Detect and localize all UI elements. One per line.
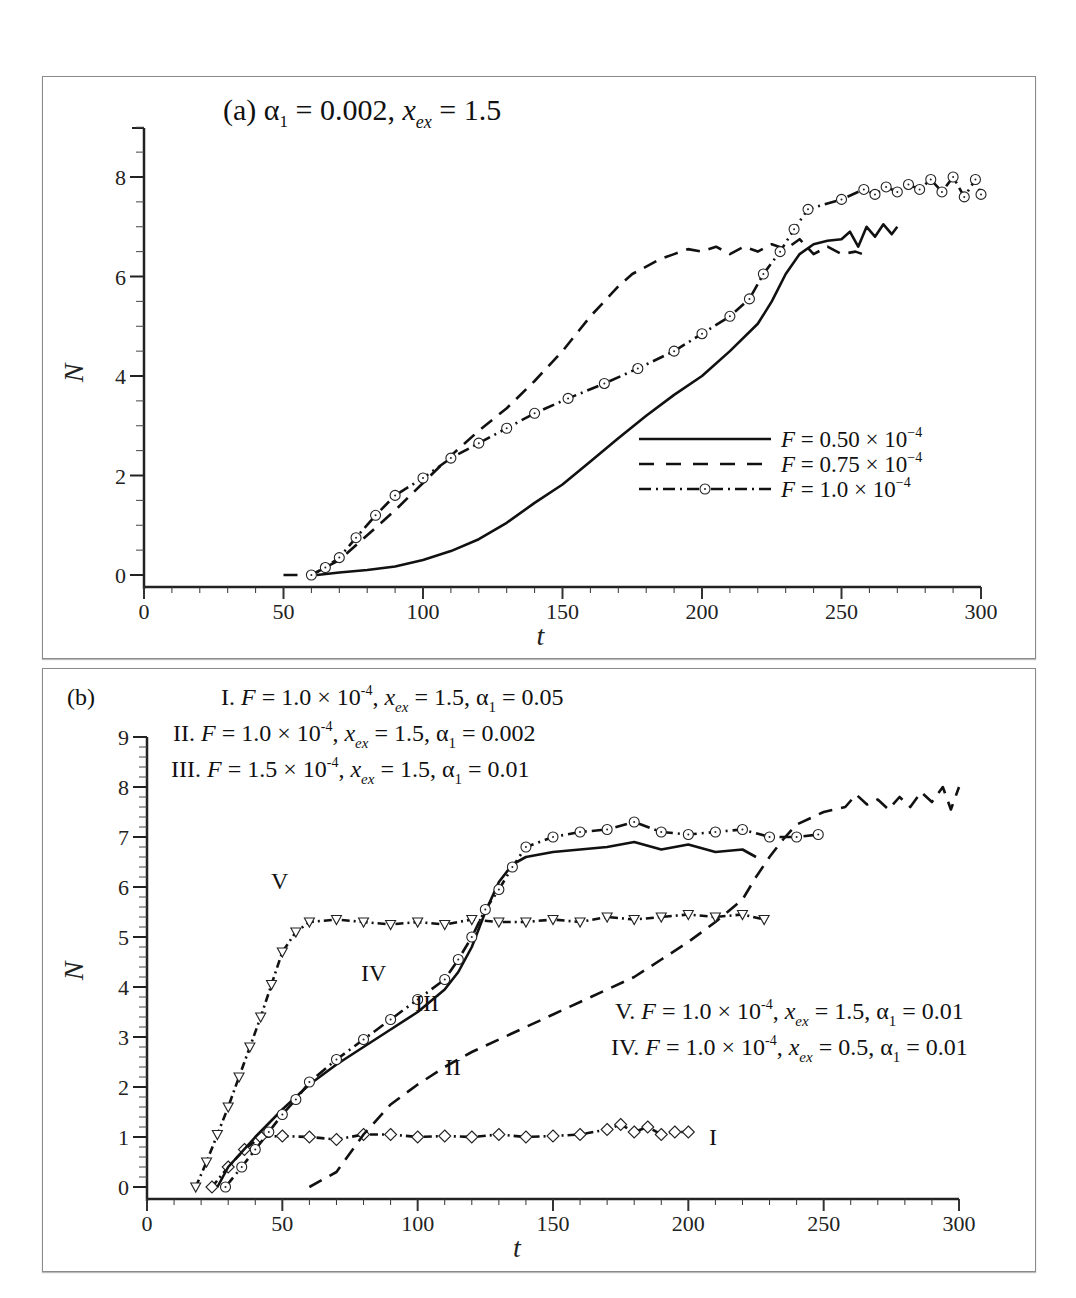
y-tick-label: 2 xyxy=(118,1075,129,1100)
triangle-marker xyxy=(277,948,287,957)
y-tick-label: 0 xyxy=(118,1175,129,1200)
diamond-marker xyxy=(682,1126,694,1138)
x-tick-label: 250 xyxy=(825,599,858,624)
series-f-0-50-10-4 xyxy=(317,224,897,575)
chart-a: 05010015020025030002468tN(a) α1 = 0.002,… xyxy=(43,77,1035,658)
annotation-v: V. F = 1.0 × 10-4, xex = 1.5, α1 = 0.01 xyxy=(615,997,964,1029)
y-tick-label: 0 xyxy=(115,563,126,588)
y-tick-label: 2 xyxy=(115,464,126,489)
x-tick-label: 50 xyxy=(271,1211,293,1236)
legend: F = 0.50 × 10−4F = 0.75 × 10−4F = 1.0 × … xyxy=(639,425,922,502)
x-tick-label: 150 xyxy=(546,599,579,624)
diamond-marker xyxy=(303,1131,315,1143)
x-tick-label: 150 xyxy=(537,1211,570,1236)
x-tick-label: 100 xyxy=(401,1211,434,1236)
diamond-marker xyxy=(493,1129,505,1141)
x-tick-label: 250 xyxy=(807,1211,840,1236)
curve-label-iv: IV xyxy=(361,960,387,986)
diamond-marker xyxy=(520,1131,532,1143)
y-axis-title: N xyxy=(58,362,89,383)
y-tick-label: 4 xyxy=(115,364,126,389)
triangle-marker xyxy=(212,1131,222,1140)
x-tick-label: 0 xyxy=(142,1211,153,1236)
y-tick-label: 7 xyxy=(118,825,129,850)
triangle-marker xyxy=(494,918,504,927)
triangle-marker xyxy=(291,928,301,937)
diamond-marker xyxy=(439,1130,451,1142)
y-tick-label: 9 xyxy=(118,725,129,750)
chart-title: (a) α1 = 0.002, xex = 1.5 xyxy=(223,93,501,132)
triangle-marker xyxy=(202,1158,212,1167)
curve-label-i: I xyxy=(709,1124,717,1150)
diamond-marker xyxy=(547,1130,559,1142)
y-tick-label: 6 xyxy=(118,875,129,900)
diamond-marker xyxy=(655,1129,667,1141)
triangle-marker xyxy=(234,1073,244,1082)
diamond-marker xyxy=(574,1129,586,1141)
annotation-iii: III. F = 1.5 × 10-4, xex = 1.5, α1 = 0.0… xyxy=(171,755,530,787)
diamond-marker xyxy=(615,1119,627,1131)
curve-label-ii: II xyxy=(445,1054,461,1080)
diamond-marker xyxy=(385,1129,397,1141)
curve-label-v: V xyxy=(271,868,289,894)
x-tick-label: 50 xyxy=(273,599,295,624)
series-i xyxy=(206,1119,694,1194)
y-axis-title: N xyxy=(58,960,89,981)
panel-b: 0501001502002503000123456789tN(b)I. F = … xyxy=(42,668,1036,1272)
diamond-marker xyxy=(412,1131,424,1143)
x-tick-label: 300 xyxy=(943,1211,976,1236)
x-tick-label: 300 xyxy=(965,599,998,624)
x-axis-title: t xyxy=(513,1232,522,1263)
x-tick-label: 100 xyxy=(407,599,440,624)
annotation-i: I. F = 1.0 × 10-4, xex = 1.5, α1 = 0.05 xyxy=(221,683,564,715)
triangle-marker xyxy=(440,921,450,930)
triangle-marker xyxy=(267,981,277,990)
curve-label-iii: III xyxy=(415,990,439,1016)
panel-label: (b) xyxy=(67,684,95,710)
triangle-marker xyxy=(191,1183,201,1192)
y-tick-label: 8 xyxy=(118,775,129,800)
diamond-marker xyxy=(628,1126,640,1138)
triangle-marker xyxy=(223,1103,233,1112)
triangle-marker xyxy=(245,1043,255,1052)
y-tick-label: 1 xyxy=(118,1125,129,1150)
diamond-marker xyxy=(642,1121,654,1133)
series-f-1-0-10-4 xyxy=(306,172,986,580)
diamond-marker xyxy=(601,1124,613,1136)
chart-b: 0501001502002503000123456789tN(b)I. F = … xyxy=(43,669,1035,1271)
panel-a: 05010015020025030002468tN(a) α1 = 0.002,… xyxy=(42,76,1036,659)
diamond-marker xyxy=(276,1130,288,1142)
annotation-iv: IV. F = 1.0 × 10-4, xex = 0.5, α1 = 0.01 xyxy=(611,1033,968,1065)
x-axis-title: t xyxy=(537,620,546,651)
x-tick-label: 200 xyxy=(686,599,719,624)
y-tick-label: 5 xyxy=(118,925,129,950)
triangle-marker xyxy=(256,1013,266,1022)
annotation-ii: II. F = 1.0 × 10-4, xex = 1.5, α1 = 0.00… xyxy=(173,719,536,751)
x-tick-label: 0 xyxy=(139,599,150,624)
legend-entry: F = 0.50 × 10−4 xyxy=(780,425,922,452)
y-tick-label: 3 xyxy=(118,1025,129,1050)
diamond-marker xyxy=(466,1131,478,1143)
triangle-marker xyxy=(331,916,341,925)
triangle-marker xyxy=(386,921,396,930)
diamond-marker xyxy=(669,1126,681,1138)
y-tick-label: 8 xyxy=(115,165,126,190)
diamond-marker xyxy=(330,1134,342,1146)
x-tick-label: 200 xyxy=(672,1211,705,1236)
legend-entry: F = 1.0 × 10−4 xyxy=(780,475,911,502)
triangle-marker xyxy=(548,916,558,925)
y-tick-label: 6 xyxy=(115,265,126,290)
y-tick-label: 4 xyxy=(118,975,129,1000)
series-f-0-75-10-4 xyxy=(284,239,870,575)
axes: 0501001502002503000123456789tN xyxy=(58,725,976,1263)
legend-entry: F = 0.75 × 10−4 xyxy=(780,450,922,477)
axes: 05010015020025030002468tN xyxy=(58,127,998,651)
